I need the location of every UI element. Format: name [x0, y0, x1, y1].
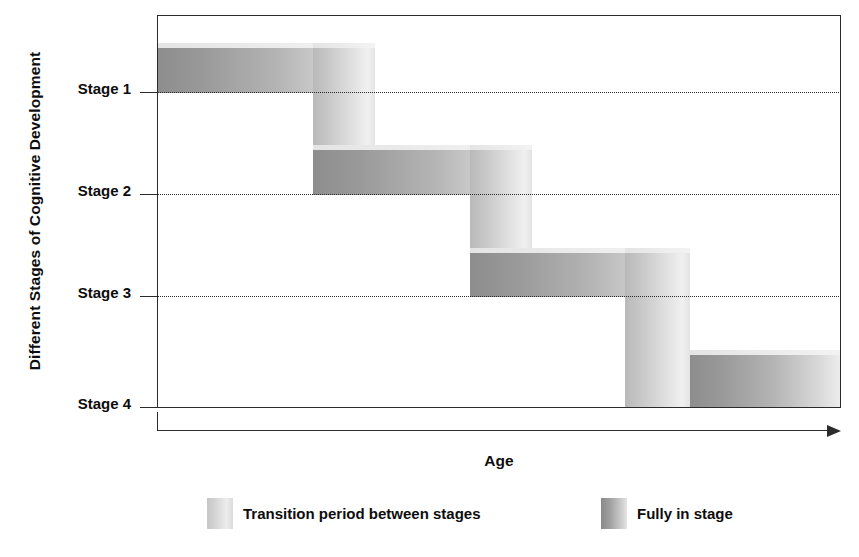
transition-swatch-icon — [207, 498, 233, 529]
tick-mark-stage-2 — [140, 194, 157, 195]
gridline-stage-3 — [157, 296, 841, 297]
gridline-stage-1 — [157, 92, 841, 93]
x-axis-title: Age — [157, 452, 841, 470]
legend-item-transition: Transition period between stages — [207, 498, 481, 529]
plot-area — [157, 15, 841, 408]
arrow-right-icon — [827, 425, 841, 437]
axis-label-stage-1: Stage 1 — [78, 81, 131, 96]
axis-label-stage-3: Stage 3 — [78, 285, 131, 300]
tick-mark-stage-4 — [140, 407, 157, 408]
bar-fully-in-stage-4 — [690, 353, 841, 408]
y-axis-line — [157, 15, 158, 408]
gridline-stage-2 — [157, 194, 841, 195]
axis-label-stage-4: Stage 4 — [78, 396, 131, 411]
legend-label-transition: Transition period between stages — [243, 498, 481, 529]
x-axis — [157, 424, 841, 438]
bar-highlight-transition-1-to-2 — [313, 43, 375, 48]
bar-highlight-transition-2-to-3 — [470, 145, 532, 150]
tick-mark-stage-1 — [140, 92, 157, 93]
tick-mark-stage-3 — [140, 296, 157, 297]
legend-item-fully-in-stage: Fully in stage — [601, 498, 733, 529]
cognitive-development-stages-chart: Different Stages of Cognitive Developmen… — [0, 0, 859, 557]
bar-transition-3-to-4 — [625, 251, 690, 408]
x-axis-line — [157, 430, 829, 431]
y-axis-title: Different Stages of Cognitive Developmen… — [26, 11, 44, 411]
bar-highlight-transition-3-to-4 — [625, 248, 690, 253]
fully-in-stage-swatch-icon — [601, 498, 627, 529]
legend: Transition period between stages Fully i… — [157, 498, 841, 538]
axis-label-stage-2: Stage 2 — [78, 183, 131, 198]
legend-label-fully-in-stage: Fully in stage — [637, 498, 733, 529]
bar-highlight-stage-4 — [690, 350, 841, 355]
